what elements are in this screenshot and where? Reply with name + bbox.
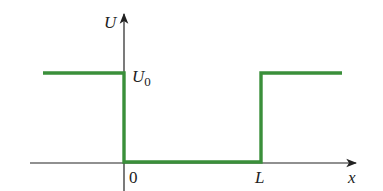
potential-well-diagram: U x U0 0 L: [0, 0, 383, 191]
u0-label-subscript: 0: [144, 74, 151, 89]
potential-curve: [43, 73, 342, 162]
y-axis-label: U: [104, 13, 118, 32]
L-label: L: [254, 168, 264, 187]
origin-label: 0: [129, 168, 138, 187]
u0-label: U0: [132, 67, 151, 89]
x-axis-label: x: [347, 168, 356, 187]
